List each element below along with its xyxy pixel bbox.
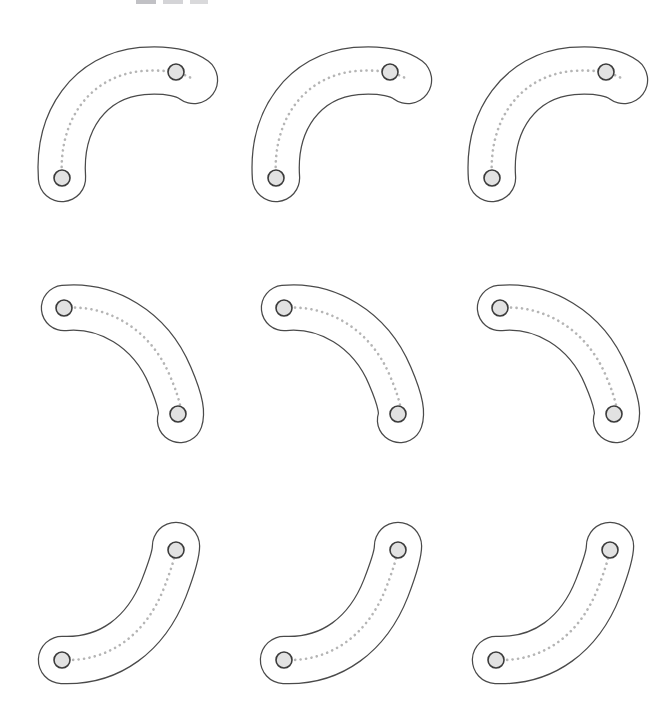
curved-blob-row2-col1[interactable] (22, 272, 212, 447)
blob-interior (492, 71, 624, 178)
blob-body (62, 546, 176, 660)
curved-blob-row2-col3[interactable] (458, 272, 648, 447)
endpoint-end-marker[interactable] (390, 406, 406, 422)
curved-blob-row3-col3[interactable] (452, 512, 652, 702)
endpoint-end-marker[interactable] (390, 542, 406, 558)
endpoint-start-marker[interactable] (56, 300, 72, 316)
curved-blob-row3-col1[interactable] (18, 512, 218, 702)
endpoint-end-marker[interactable] (170, 406, 186, 422)
blob-interior (276, 71, 408, 178)
blob-body (496, 546, 610, 660)
blob-body (62, 71, 194, 178)
endpoint-end-marker[interactable] (382, 64, 398, 80)
curved-blob-row1-col3[interactable] (448, 28, 648, 218)
endpoint-end-marker[interactable] (598, 64, 614, 80)
endpoint-start-marker[interactable] (276, 300, 292, 316)
endpoint-end-marker[interactable] (168, 542, 184, 558)
endpoint-start-marker[interactable] (54, 170, 70, 186)
curved-blob-row1-col1[interactable] (18, 28, 218, 218)
shape-grid (0, 0, 659, 719)
endpoint-start-marker[interactable] (268, 170, 284, 186)
curved-blob-row3-col2[interactable] (240, 512, 440, 702)
figure-canvas (0, 0, 659, 719)
endpoint-start-marker[interactable] (54, 652, 70, 668)
endpoint-end-marker[interactable] (606, 406, 622, 422)
curved-blob-row2-col2[interactable] (242, 272, 432, 447)
endpoint-start-marker[interactable] (488, 652, 504, 668)
curved-blob-row1-col2[interactable] (232, 28, 432, 218)
blob-body (492, 71, 624, 178)
blob-body (284, 546, 398, 660)
blob-interior (62, 71, 194, 178)
endpoint-start-marker[interactable] (492, 300, 508, 316)
endpoint-start-marker[interactable] (484, 170, 500, 186)
endpoint-end-marker[interactable] (168, 64, 184, 80)
endpoint-end-marker[interactable] (602, 542, 618, 558)
blob-body (276, 71, 408, 178)
endpoint-start-marker[interactable] (276, 652, 292, 668)
